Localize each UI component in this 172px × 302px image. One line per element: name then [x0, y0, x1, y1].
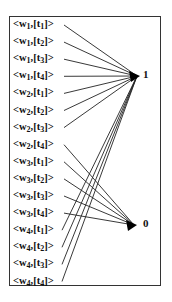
connection-line: [64, 76, 137, 93]
connection-line: [64, 145, 134, 225]
connection-line: [64, 25, 137, 76]
input-item: <w1,[t4]>: [13, 69, 54, 84]
input-item: <w1,[t3]>: [13, 52, 54, 67]
connection-line: [64, 42, 137, 76]
connection-line: [64, 196, 134, 225]
output-node-0-label: 0: [143, 217, 149, 229]
connection-line: [62, 76, 137, 230]
input-item: <w4,[t1]>: [13, 223, 54, 238]
input-item: <w3,[t2]>: [13, 172, 54, 187]
input-item: <w4,[t3]>: [13, 257, 54, 272]
connection-line: [62, 76, 137, 282]
input-item: <w2,[t3]>: [13, 121, 54, 136]
input-item: <w1,[t1]>: [13, 18, 54, 33]
input-item: <w2,[t2]>: [13, 104, 54, 119]
input-item: <w2,[t4]>: [13, 138, 54, 153]
input-item: <w3,[t3]>: [13, 189, 54, 204]
input-item: <w3,[t1]>: [13, 155, 54, 170]
input-item: <w2,[t1]>: [13, 86, 54, 101]
input-item: <w1,[t2]>: [13, 35, 54, 50]
input-item: <w4,[t4]>: [13, 275, 54, 290]
output-node-1-label: 1: [143, 68, 149, 80]
input-item: <w4,[t2]>: [13, 240, 54, 255]
connection-line: [64, 59, 137, 76]
input-item: <w3,[t4]>: [13, 206, 54, 221]
